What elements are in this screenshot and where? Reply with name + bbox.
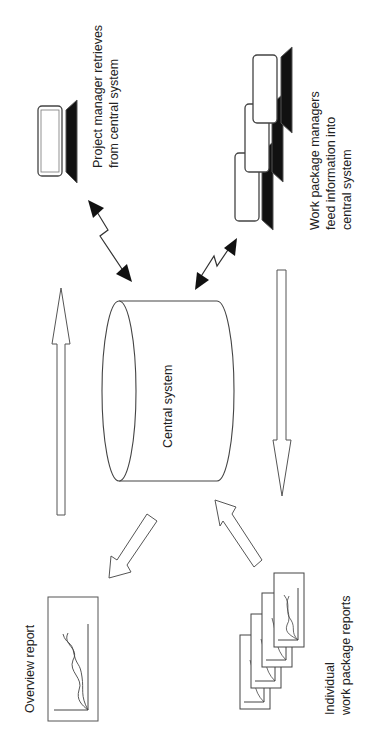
individual-reports-line1: Individual: [323, 662, 337, 715]
central-system-text: Central system: [161, 365, 175, 448]
overview-report-text: Overview report: [23, 625, 37, 713]
wpm-label-line2: feed information into: [324, 117, 338, 230]
overview-report-label: Overview report: [22, 625, 38, 713]
wpm-label-line1: Work package managers: [308, 91, 322, 230]
chart-report-icon: [48, 597, 98, 721]
individual-reports-line2: work package reports: [339, 595, 353, 715]
block-arrow-from-individual: [215, 500, 262, 567]
wpm-label-line3: central system: [340, 149, 354, 230]
individual-reports-label: Individualwork package reports: [322, 595, 354, 715]
lightning-arrow-work-package: [195, 238, 237, 290]
project-manager-label: Project manager retrievesfrom central sy…: [90, 25, 122, 168]
project-manager-label-line2: from central system: [107, 59, 121, 168]
project-manager-label-line1: Project manager retrieves: [91, 25, 105, 168]
lightning-arrow-project-manager: [88, 200, 132, 282]
work-package-managers-label: Work package managersfeed information in…: [307, 91, 355, 230]
down-arrow: [273, 270, 291, 496]
block-arrow-to-overview: [109, 514, 157, 578]
report-stack-icon: [240, 573, 304, 709]
computer-icon: [38, 100, 77, 183]
computer-stack-icon: [235, 47, 292, 230]
central-system-label: Central system: [160, 365, 176, 448]
up-arrow: [52, 288, 70, 515]
